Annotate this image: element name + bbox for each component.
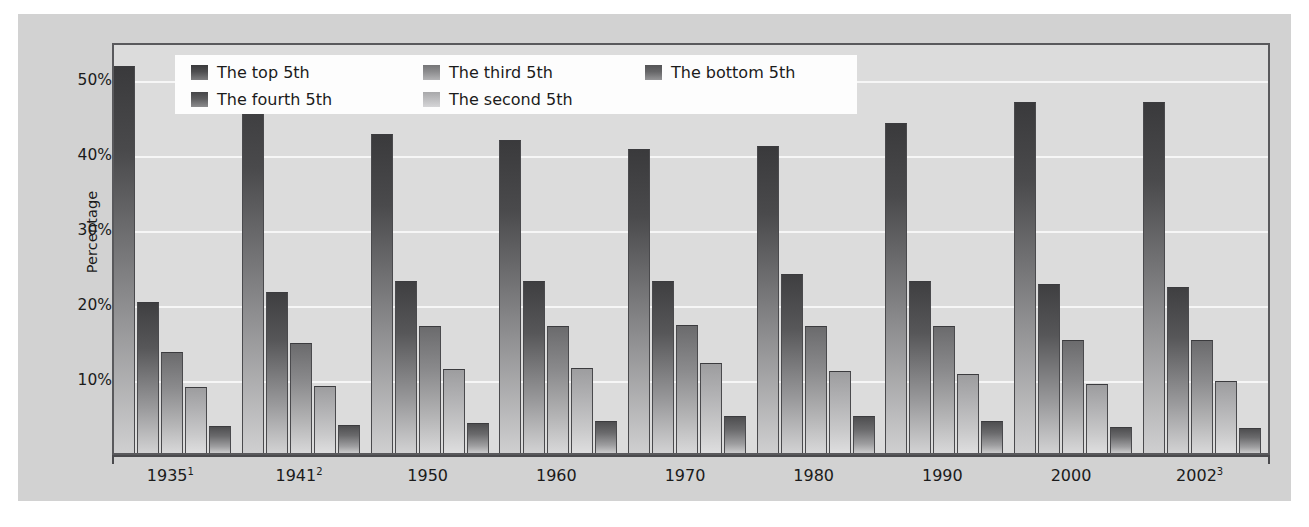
bar: [467, 423, 489, 453]
bar: [266, 292, 288, 453]
bar-group: [1143, 45, 1270, 453]
figure-panel: Percentage 10%20%30%40%50% 1935119412195…: [18, 14, 1291, 501]
bar: [113, 66, 135, 453]
y-axis-tick-label: 20%: [78, 296, 112, 314]
bar: [981, 421, 1003, 453]
bar: [1014, 102, 1036, 453]
bar: [1239, 428, 1261, 453]
bar: [314, 386, 336, 453]
bar: [1191, 340, 1213, 453]
bar-chart: Percentage 10%20%30%40%50% 1935119412195…: [18, 14, 1291, 501]
y-axis-tick-label: 30%: [78, 221, 112, 239]
bar: [338, 425, 360, 453]
x-axis-tick-label: 1980: [793, 466, 834, 485]
bar: [957, 374, 979, 453]
bar: [933, 326, 955, 453]
bar: [161, 352, 183, 453]
x-axis-tick-label: 2000: [1051, 466, 1092, 485]
bar: [395, 281, 417, 453]
x-axis-tick-labels: 193511941219501960197019801990200020023: [112, 466, 1270, 500]
x-axis-tick-label: 1970: [665, 466, 706, 485]
bar: [547, 326, 569, 453]
x-axis-endcap-right: [1268, 455, 1270, 464]
x-axis-tick-footnote: 2: [316, 466, 322, 477]
y-axis-tick-label: 40%: [78, 146, 112, 164]
bar: [1167, 287, 1189, 453]
bar: [1143, 102, 1165, 453]
legend-item-label: The bottom 5th: [671, 63, 795, 82]
bar: [1038, 284, 1060, 453]
bar: [676, 325, 698, 453]
legend-item-label: The fourth 5th: [217, 90, 332, 109]
bar-group: [886, 45, 1015, 453]
bar: [209, 426, 231, 453]
bar: [885, 123, 907, 453]
bar: [1062, 340, 1084, 453]
legend-item-label: The third 5th: [449, 63, 553, 82]
x-axis-tick-footnote: 1: [188, 466, 194, 477]
bar: [595, 421, 617, 453]
x-axis-line: [112, 455, 1270, 457]
x-axis-tick-label: 19351: [147, 466, 194, 485]
legend-item-label: The top 5th: [217, 63, 310, 82]
bar: [443, 369, 465, 453]
bar: [499, 140, 521, 453]
bar: [185, 387, 207, 453]
swatch-third-5th: [423, 65, 440, 80]
y-axis-tick-label: 50%: [78, 71, 112, 89]
swatch-bottom-5th: [645, 65, 662, 80]
bar: [757, 146, 779, 453]
legend-item: The bottom 5th: [645, 59, 857, 86]
bar: [290, 343, 312, 453]
y-axis-tick-labels: 10%20%30%40%50%: [50, 14, 112, 501]
legend-item: The fourth 5th: [191, 86, 423, 113]
bar: [523, 281, 545, 453]
bar: [853, 416, 875, 453]
legend-item: The top 5th: [191, 59, 423, 86]
bar: [781, 274, 803, 453]
x-axis-tick-label: 20023: [1176, 466, 1223, 485]
bar: [1215, 381, 1237, 453]
legend-item-label: The second 5th: [449, 90, 573, 109]
bar: [371, 134, 393, 453]
bar: [137, 302, 159, 453]
bar-group: [1015, 45, 1144, 453]
bar: [829, 371, 851, 453]
bar: [805, 326, 827, 453]
legend: The top 5thThe third 5thThe bottom 5thTh…: [175, 55, 857, 114]
x-axis-tick-label: 1960: [536, 466, 577, 485]
legend-item: The third 5th: [423, 59, 645, 86]
bar: [1110, 427, 1132, 453]
bar: [242, 87, 264, 453]
bar: [652, 281, 674, 453]
bar: [1086, 384, 1108, 453]
x-axis-tick-label: 19412: [275, 466, 322, 485]
bar: [724, 416, 746, 453]
y-axis-tick-label: 10%: [78, 371, 112, 389]
legend-item: The second 5th: [423, 86, 645, 113]
x-axis-tick-footnote: 3: [1217, 466, 1223, 477]
bar: [700, 363, 722, 453]
x-axis-endcap-left: [112, 455, 114, 464]
swatch-top-5th: [191, 65, 208, 80]
x-axis-tick-label: 1990: [922, 466, 963, 485]
bar: [571, 368, 593, 453]
x-axis-tick-label: 1950: [407, 466, 448, 485]
swatch-second-5th: [423, 92, 440, 107]
bar: [419, 326, 441, 453]
swatch-fourth-5th: [191, 92, 208, 107]
bar: [628, 149, 650, 453]
bar: [909, 281, 931, 453]
